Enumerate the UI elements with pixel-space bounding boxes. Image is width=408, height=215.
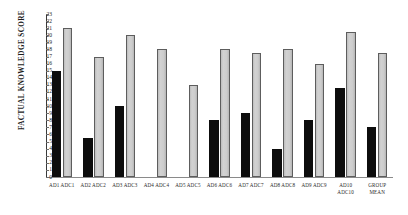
bar-ad-6 xyxy=(209,120,219,177)
x-tick-label: AD5 ADC5 xyxy=(172,182,204,189)
bar-adc-5 xyxy=(189,85,199,177)
bar-ad-3 xyxy=(115,106,125,177)
bar-ad-2 xyxy=(83,138,93,177)
x-tick-label: AD4 ADC4 xyxy=(141,182,173,189)
bar-group xyxy=(141,14,173,177)
bar-group xyxy=(172,14,204,177)
bar-ad-7 xyxy=(241,113,251,177)
x-tick-label: AD6 ADC6 xyxy=(204,182,236,189)
bar-group xyxy=(267,14,299,177)
x-tick-label: AD10 ADC10 xyxy=(330,182,362,196)
x-tick-label: AD2 ADC2 xyxy=(78,182,110,189)
bar-ad-11 xyxy=(367,127,377,177)
factual-knowledge-score-bar-chart: FACTUAL KNOWLEDGE SCORE 0123456789101112… xyxy=(0,0,408,215)
bar-adc-6 xyxy=(220,49,230,177)
bar-adc-9 xyxy=(315,64,325,177)
bar-group xyxy=(78,14,110,177)
bar-ad-1 xyxy=(52,71,62,177)
bar-group xyxy=(330,14,362,177)
x-tick-label: AD3 ADC3 xyxy=(109,182,141,189)
bar-ad-9 xyxy=(304,120,314,177)
x-tick-label: GROUP MEAN xyxy=(361,182,393,196)
x-axis-tick-labels: AD1 ADC1AD2 ADC2AD3 ADC3AD4 ADC4AD5 ADC5… xyxy=(46,182,393,210)
bar-group xyxy=(46,14,78,177)
y-axis-title: FACTUAL KNOWLEDGE SCORE xyxy=(18,0,26,140)
x-axis-line xyxy=(46,177,393,178)
bar-ad-10 xyxy=(335,88,345,177)
x-tick-label: AD8 ADC8 xyxy=(267,182,299,189)
bar-ad-8 xyxy=(272,149,282,177)
bar-group xyxy=(361,14,393,177)
bar-adc-1 xyxy=(63,28,73,177)
bar-group xyxy=(109,14,141,177)
bar-adc-10 xyxy=(346,32,356,177)
bar-adc-2 xyxy=(94,57,104,177)
x-tick-label: AD9 ADC9 xyxy=(298,182,330,189)
bar-adc-4 xyxy=(157,49,167,177)
plot-area: 01234567891011121314151617181920212223 xyxy=(46,14,393,178)
bar-group xyxy=(235,14,267,177)
x-tick-label: AD7 ADC7 xyxy=(235,182,267,189)
bar-group xyxy=(204,14,236,177)
bar-group xyxy=(298,14,330,177)
bar-adc-7 xyxy=(252,53,262,177)
bar-adc-11 xyxy=(378,53,388,177)
y-tick-mark xyxy=(46,177,49,178)
bar-adc-8 xyxy=(283,49,293,177)
x-tick-label: AD1 ADC1 xyxy=(46,182,78,189)
bar-adc-3 xyxy=(126,35,136,177)
